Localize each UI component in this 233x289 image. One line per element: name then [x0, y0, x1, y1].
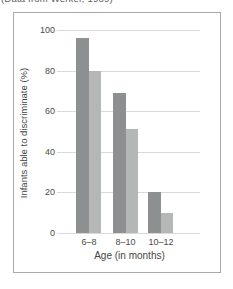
x-tick-label-8–10: 8–10 — [106, 237, 146, 247]
bar-light-10–12 — [161, 213, 173, 233]
bar-light-6–8 — [89, 71, 101, 233]
y-tick-label-60: 60 — [24, 106, 55, 117]
x-tick-label-6–8: 6–8 — [69, 237, 109, 247]
chart-frame: 0204060801006–88–1010–12 Age (in months)… — [13, 12, 221, 273]
y-tick-label-100: 100 — [24, 25, 55, 36]
bar-light-8–10 — [126, 129, 138, 233]
gridline-0 — [57, 233, 200, 234]
figure-screenshot: (Data from Werker, 1989) 0204060801006–8… — [0, 0, 233, 289]
x-tick-label-10–12: 10–12 — [141, 237, 181, 247]
bar-dark-10–12 — [148, 192, 161, 233]
bar-dark-6–8 — [76, 38, 89, 233]
y-tick-label-0: 0 — [24, 228, 55, 239]
figure-caption: (Data from Werker, 1989) — [1, 0, 113, 4]
y-tick-label-40: 40 — [24, 147, 55, 158]
y-tick-label-20: 20 — [24, 187, 55, 198]
y-tick-label-80: 80 — [24, 66, 55, 77]
bar-dark-8–10 — [113, 93, 126, 233]
x-axis-label: Age (in months) — [58, 250, 201, 261]
y-axis-label: Infants able to discriminate (%) — [18, 68, 29, 198]
gridline-100 — [57, 30, 200, 31]
